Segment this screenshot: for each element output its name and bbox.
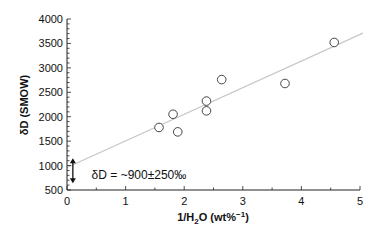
annotations: δD = ~900±250‰: [70, 158, 186, 183]
y-tick-label: 3000: [39, 62, 63, 74]
y-tick-label: 2000: [39, 111, 63, 123]
data-point: [202, 107, 211, 116]
x-tick-label: 3: [240, 195, 246, 207]
data-point: [173, 128, 182, 137]
scatter-chart: 5001000150020002500300035004000012345 δD…: [0, 0, 379, 236]
data-point: [217, 75, 226, 84]
x-axis-title: 1/H2O (wt%−1): [177, 210, 249, 226]
x-tick-label: 4: [298, 195, 304, 207]
intercept-annotation: δD = ~900±250‰: [92, 168, 187, 182]
y-tick-label: 1500: [39, 135, 63, 147]
y-axis-title: δD (SMOW): [18, 74, 30, 135]
x-tick-label: 5: [357, 195, 363, 207]
x-tick-label: 0: [64, 195, 70, 207]
y-tick-label: 2500: [39, 86, 63, 98]
axes: 5001000150020002500300035004000012345: [39, 13, 364, 207]
y-tick-label: 500: [45, 184, 63, 196]
x-tick-label: 1: [123, 195, 129, 207]
data-point: [202, 97, 211, 106]
data-point: [281, 79, 290, 88]
y-tick-label: 3500: [39, 37, 63, 49]
y-tick-label: 1000: [39, 160, 63, 172]
y-tick-label: 4000: [39, 13, 63, 25]
data-point: [155, 123, 164, 132]
data-points: [155, 38, 339, 136]
data-point: [169, 110, 178, 119]
data-point: [330, 38, 339, 47]
regression-line: [67, 33, 363, 167]
x-tick-label: 2: [181, 195, 187, 207]
